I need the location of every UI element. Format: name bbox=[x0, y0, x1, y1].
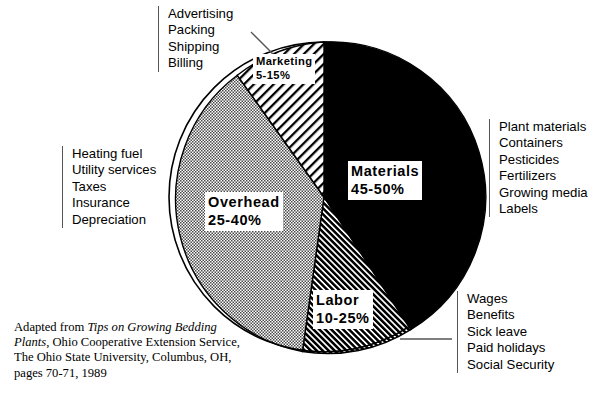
callout-labor-line-2: Benefits bbox=[467, 307, 554, 323]
source-prefix: Adapted from bbox=[14, 320, 87, 334]
callout-materials-items: Plant materials Containers Pesticides Fe… bbox=[489, 119, 588, 217]
slice-label-marketing: Marketing 5-15% bbox=[253, 54, 315, 84]
callout-overhead-line-1: Heating fuel bbox=[72, 146, 156, 162]
source-citation-line-4: pages 70-71, 1989 bbox=[14, 366, 264, 381]
slice-label-materials-percent: 45-50% bbox=[351, 180, 419, 198]
slice-label-marketing-percent: 5-15% bbox=[256, 69, 312, 83]
callout-overhead-line-5: Depreciation bbox=[72, 212, 156, 228]
source-title-part-1: Tips on Growing Bedding bbox=[87, 320, 216, 334]
callout-materials-line-5: Growing media bbox=[499, 185, 588, 201]
callout-materials-line-2: Containers bbox=[499, 135, 588, 151]
source-citation-line-2: Plants, Ohio Cooperative Extension Servi… bbox=[14, 335, 264, 350]
callout-materials-line-4: Fertilizers bbox=[499, 168, 588, 184]
callout-labor-items: Wages Benefits Sick leave Paid holidays … bbox=[457, 291, 554, 373]
source-citation: Adapted from Tips on Growing Bedding Pla… bbox=[14, 320, 264, 381]
callout-overhead-line-4: Insurance bbox=[72, 195, 156, 211]
source-publisher: , Ohio Cooperative Extension Service, bbox=[46, 335, 240, 349]
callout-materials-line-3: Pesticides bbox=[499, 152, 588, 168]
callout-overhead-items: Heating fuel Utility services Taxes Insu… bbox=[62, 146, 156, 228]
callout-materials-line-6: Labels bbox=[499, 201, 588, 217]
slice-label-labor: Labor 10-25% bbox=[313, 290, 373, 329]
callout-labor-line-1: Wages bbox=[467, 291, 554, 307]
callout-overhead-line-3: Taxes bbox=[72, 179, 156, 195]
slice-label-labor-percent: 10-25% bbox=[316, 309, 370, 327]
callout-marketing-items: Advertising Packing Shipping Billing bbox=[158, 6, 233, 72]
slice-label-materials-name: Materials bbox=[351, 162, 419, 180]
source-title-part-2: Plants bbox=[14, 335, 46, 349]
callout-overhead-line-2: Utility services bbox=[72, 162, 156, 178]
slice-label-overhead: Overhead 25-40% bbox=[205, 192, 283, 231]
slice-label-overhead-percent: 25-40% bbox=[208, 211, 280, 229]
callout-marketing-line-1: Advertising bbox=[168, 6, 233, 22]
source-citation-line-3: The Ohio State University, Columbus, OH, bbox=[14, 350, 264, 365]
callout-marketing-line-3: Shipping bbox=[168, 39, 233, 55]
slice-label-overhead-name: Overhead bbox=[208, 193, 280, 211]
source-citation-line-1: Adapted from Tips on Growing Bedding bbox=[14, 320, 264, 335]
callout-labor-line-3: Sick leave bbox=[467, 324, 554, 340]
callout-labor-line-4: Paid holidays bbox=[467, 340, 554, 356]
callout-labor-line-5: Social Security bbox=[467, 357, 554, 373]
slice-label-materials: Materials 45-50% bbox=[348, 161, 422, 200]
callout-marketing-line-2: Packing bbox=[168, 22, 233, 38]
slice-label-marketing-name: Marketing bbox=[256, 55, 312, 69]
slice-label-labor-name: Labor bbox=[316, 291, 370, 309]
callout-materials-line-1: Plant materials bbox=[499, 119, 588, 135]
callout-marketing-line-4: Billing bbox=[168, 55, 233, 71]
pie-chart-figure: Advertising Packing Shipping Billing Hea… bbox=[0, 0, 609, 398]
